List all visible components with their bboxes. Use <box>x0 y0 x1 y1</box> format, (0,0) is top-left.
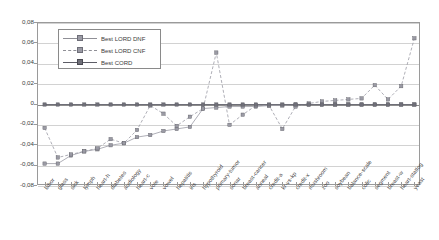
data-point-marker <box>188 103 191 106</box>
data-point-marker <box>149 103 152 106</box>
data-point-marker <box>373 83 376 86</box>
legend-item-best-cord: Best CORD <box>63 57 156 69</box>
y-axis-tick-label: 0,08 <box>0 19 34 25</box>
legend-item-best-lord-dnf: Best LORD DNF <box>63 33 156 45</box>
legend-swatch-best-cord <box>63 58 97 68</box>
y-axis-tick-label: 0 <box>0 100 34 106</box>
data-point-marker <box>135 135 138 138</box>
data-point-marker <box>162 129 165 132</box>
data-point-marker <box>96 103 99 106</box>
data-point-marker <box>320 103 323 106</box>
y-axis-tick-label: -0,02 <box>0 120 34 126</box>
data-point-marker <box>43 103 46 106</box>
y-axis-tick-label: -0,04 <box>0 141 34 147</box>
data-point-marker <box>347 103 350 106</box>
data-point-marker <box>281 103 284 106</box>
data-point-marker <box>109 137 112 140</box>
data-point-marker <box>43 126 46 129</box>
data-point-marker <box>149 133 152 136</box>
legend-swatch-best-lord-dnf <box>63 34 97 44</box>
series-line <box>45 105 415 164</box>
data-point-marker <box>83 103 86 106</box>
data-point-marker <box>386 103 389 106</box>
data-point-marker <box>109 103 112 106</box>
data-point-marker <box>294 103 297 106</box>
data-point-marker <box>162 103 165 106</box>
data-point-marker <box>333 103 336 106</box>
y-axis-tick-label: 0,02 <box>0 80 34 86</box>
data-point-marker <box>373 103 376 106</box>
data-point-marker <box>175 103 178 106</box>
data-point-marker <box>347 98 350 101</box>
legend-square-marker-icon <box>77 59 83 65</box>
data-point-marker <box>135 128 138 131</box>
data-point-marker <box>188 115 191 118</box>
legend-item-best-lord-cnf: Best LORD CNF <box>63 45 156 57</box>
data-point-marker <box>386 98 389 101</box>
legend-label-best-lord-cnf: Best LORD CNF <box>101 48 145 54</box>
data-point-marker <box>215 103 218 106</box>
data-point-marker <box>69 153 72 156</box>
x-axis-labels: laborglasssicklymphheart-hdiabetesaudiol… <box>0 187 439 240</box>
data-point-marker <box>254 103 257 106</box>
data-point-marker <box>162 112 165 115</box>
y-axis-tick-label: 0,06 <box>0 39 34 45</box>
data-point-marker <box>360 97 363 100</box>
data-point-marker <box>399 103 402 106</box>
data-point-marker <box>175 124 178 127</box>
data-point-marker <box>228 103 231 106</box>
data-point-marker <box>83 150 86 153</box>
data-point-marker <box>267 103 270 106</box>
legend-label-best-lord-dnf: Best LORD DNF <box>101 36 145 42</box>
data-point-marker <box>56 103 59 106</box>
data-point-marker <box>109 144 112 147</box>
data-point-marker <box>281 127 284 130</box>
data-point-marker <box>188 125 191 128</box>
data-point-marker <box>201 107 204 110</box>
y-axis-tick-mark <box>34 185 37 186</box>
data-point-marker <box>413 37 416 40</box>
y-axis-tick-label: -0,06 <box>0 161 34 167</box>
data-point-marker <box>360 103 363 106</box>
chart-legend: Best LORD DNF Best LORD CNF Best CORD <box>58 29 161 69</box>
data-point-marker <box>333 99 336 102</box>
data-point-marker <box>215 51 218 54</box>
data-point-marker <box>43 162 46 165</box>
data-point-marker <box>135 103 138 106</box>
legend-square-marker-icon <box>77 47 83 53</box>
data-point-marker <box>96 147 99 150</box>
data-point-marker <box>122 142 125 145</box>
data-point-marker <box>307 103 310 106</box>
data-point-marker <box>56 156 59 159</box>
y-axis-tick-label: 0,04 <box>0 59 34 65</box>
data-point-marker <box>69 103 72 106</box>
data-point-marker <box>228 123 231 126</box>
chart-container: 0,080,060,040,020-0,02-0,04-0,06-0,08 la… <box>0 0 439 240</box>
data-point-marker <box>241 113 244 116</box>
data-point-marker <box>241 103 244 106</box>
data-point-marker <box>56 162 59 165</box>
legend-label-best-cord: Best CORD <box>101 60 132 66</box>
legend-square-marker-icon <box>77 35 83 41</box>
legend-swatch-best-lord-cnf <box>63 46 97 56</box>
data-point-marker <box>399 84 402 87</box>
data-point-marker <box>413 103 416 106</box>
data-point-marker <box>201 103 204 106</box>
data-point-marker <box>122 103 125 106</box>
